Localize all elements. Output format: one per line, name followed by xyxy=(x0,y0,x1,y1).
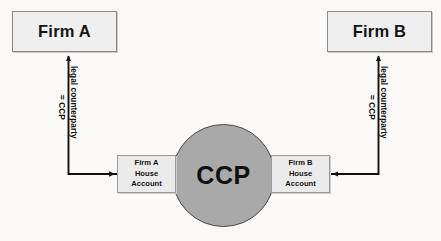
ccp-node: CCP xyxy=(172,124,275,227)
ccp-diagram: Firm A Firm B Firm A House Account Firm … xyxy=(0,0,441,241)
firm-b-house-account-node: Firm B House Account xyxy=(271,155,330,193)
house-a-line-2: House xyxy=(135,169,158,180)
house-a-line-1: Firm A xyxy=(135,158,159,169)
house-b-line-1: Firm B xyxy=(288,158,312,169)
edge-label-right-main: legal counterparty xyxy=(379,66,388,139)
ccp-label: CCP xyxy=(196,161,250,190)
house-b-line-2: House xyxy=(289,169,312,180)
edge-label-right-sub: = CCP xyxy=(367,95,376,120)
house-a-line-3: Account xyxy=(131,179,161,190)
edge-label-left-main: legal counterparty xyxy=(69,66,78,139)
firm-a-house-account-node: Firm A House Account xyxy=(117,155,176,193)
edge-label-left-sub: = CCP xyxy=(57,95,66,120)
house-b-line-3: Account xyxy=(285,179,315,190)
